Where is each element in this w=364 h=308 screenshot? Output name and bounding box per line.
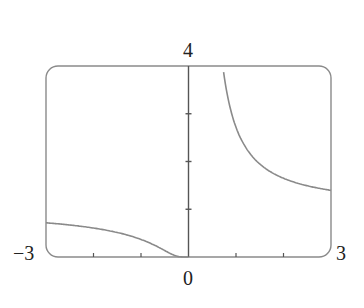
curve-left-branch [46, 223, 189, 257]
x-max-label: 3 [336, 243, 346, 263]
origin-label: 0 [183, 268, 193, 288]
y-max-label: 4 [183, 40, 193, 60]
curve-right-branch [224, 72, 331, 190]
function-plot [0, 0, 364, 308]
x-min-label: −3 [13, 243, 34, 263]
